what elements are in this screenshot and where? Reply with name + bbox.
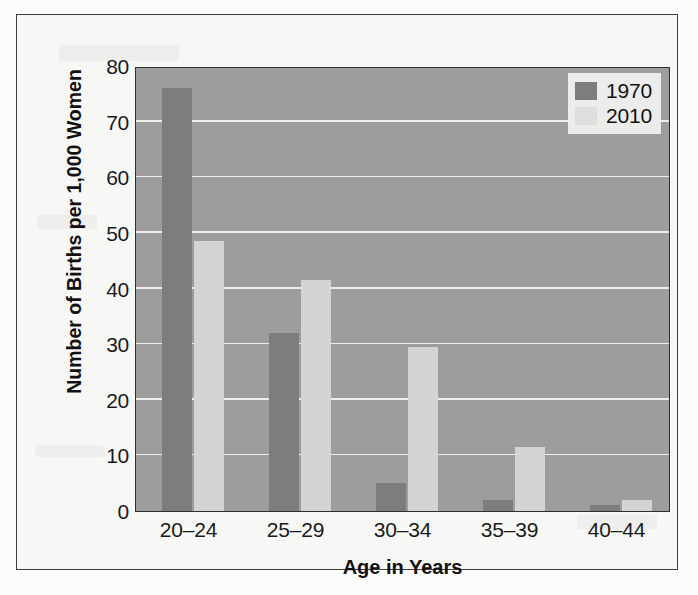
legend: 1970 2010: [568, 73, 661, 134]
y-tick-label: 30: [83, 333, 129, 357]
x-tick-label: 30–34: [349, 518, 456, 542]
y-tick-label: 80: [83, 55, 129, 79]
gridline: [136, 176, 669, 178]
bar-2010-40-44: [622, 500, 652, 511]
x-tick-label: 35–39: [456, 518, 563, 542]
x-tick-label: 20–24: [135, 518, 242, 542]
bar-1970-35-39: [483, 500, 513, 511]
bar-1970-20-24: [162, 88, 192, 511]
legend-label-2010: 2010: [606, 105, 652, 126]
bar-1970-25-29: [269, 333, 299, 511]
bar-2010-30-34: [408, 347, 438, 511]
legend-swatch-1970-icon: [575, 82, 597, 100]
gridline: [136, 231, 669, 233]
y-tick-label: 70: [83, 111, 129, 135]
bar-1970-30-34: [376, 483, 406, 511]
x-tick-label: 40–44: [563, 518, 670, 542]
y-tick-label: 50: [83, 222, 129, 246]
bar-1970-40-44: [590, 505, 620, 511]
legend-label-1970: 1970: [606, 80, 652, 101]
x-tick-label: 25–29: [242, 518, 349, 542]
y-tick-label: 10: [83, 444, 129, 468]
legend-swatch-2010-icon: [575, 107, 597, 125]
bar-2010-20-24: [194, 241, 224, 511]
x-axis-ticks: 20–2425–2930–3435–3940–44: [135, 518, 670, 552]
y-tick-label: 0: [83, 500, 129, 524]
y-axis-ticks: 01020304050607080: [73, 67, 129, 512]
y-tick-label: 40: [83, 278, 129, 302]
y-tick-label: 20: [83, 389, 129, 413]
bar-2010-25-29: [301, 280, 331, 511]
y-tick-label: 60: [83, 166, 129, 190]
figure-border: Number of Births per 1,000 Women 0102030…: [16, 14, 678, 570]
bar-2010-35-39: [515, 447, 545, 511]
x-axis-label: Age in Years: [135, 556, 670, 579]
legend-item-1970: 1970: [575, 78, 652, 103]
figure: Number of Births per 1,000 Women 0102030…: [0, 0, 698, 595]
legend-item-2010: 2010: [575, 103, 652, 128]
